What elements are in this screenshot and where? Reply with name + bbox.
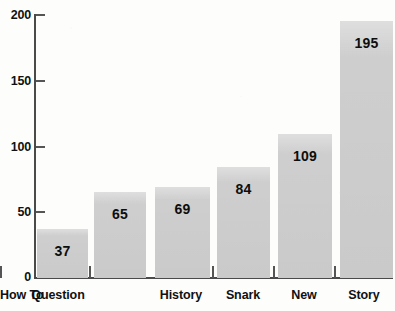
y-tick-label-50: 50 (17, 205, 31, 219)
category-label-snark: Snark (213, 288, 273, 302)
bar-value-how-to: 65 (94, 206, 146, 222)
bar-snark[interactable]: 84 (217, 167, 270, 278)
category-label-story: Story (336, 288, 392, 302)
bar-value-snark: 84 (217, 181, 270, 197)
y-tick-label-200: 200 (11, 8, 31, 22)
bar-value-story: 195 (340, 35, 393, 51)
y-tick-label-0: 0 (24, 270, 31, 284)
y-tick-label-150: 150 (11, 74, 31, 88)
category-label-how-to: How To (0, 288, 44, 302)
x-tick-mark-2 (0, 266, 2, 278)
bar-chart: 200 150 100 50 0 37 65 69 84 109 (0, 0, 395, 311)
bar-history[interactable]: 69 (155, 187, 210, 278)
y-axis-tick-labels: 200 150 100 50 0 (0, 0, 31, 311)
category-label-new: New (275, 288, 333, 302)
plot-area: 37 65 69 84 109 195 (35, 14, 393, 278)
category-label-history: History (150, 288, 212, 302)
bar-value-new: 109 (278, 148, 332, 164)
bar-how-to[interactable]: 65 (94, 192, 146, 278)
bar-value-question: 37 (37, 243, 88, 259)
bar-new[interactable]: 109 (278, 134, 332, 278)
bar-question[interactable]: 37 (37, 229, 88, 278)
bar-value-history: 69 (155, 201, 210, 217)
bar-story[interactable]: 195 (340, 21, 393, 278)
y-tick-label-100: 100 (11, 140, 31, 154)
